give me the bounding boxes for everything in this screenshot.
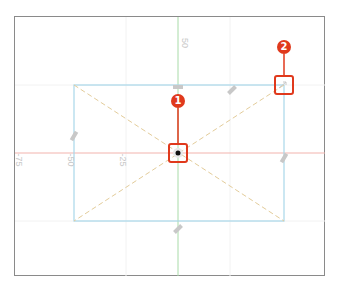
axis-label-top: 50 (180, 38, 190, 48)
left-edge-handle (70, 131, 78, 142)
top-edge-handle (227, 85, 237, 95)
transform-canvas[interactable] (0, 0, 356, 294)
axis-label-left-mid: -50 (66, 153, 76, 166)
callout-badge-2: 2 (277, 40, 291, 54)
callout-badge-1: 1 (171, 94, 185, 108)
pivot-point[interactable] (176, 151, 181, 156)
right-edge-handle (280, 153, 288, 164)
axis-label-left-edge: -75 (14, 153, 24, 166)
top-center-handle (173, 85, 183, 89)
axis-label-left-inner: -25 (118, 153, 128, 166)
